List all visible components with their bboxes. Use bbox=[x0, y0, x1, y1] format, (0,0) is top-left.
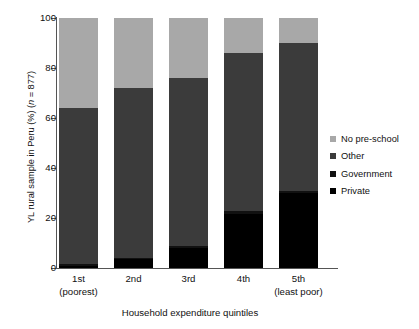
x-axis-line bbox=[56, 268, 338, 269]
x-axis-tick-label-sub: (least poor) bbox=[259, 286, 339, 299]
legend-swatch-icon bbox=[330, 136, 336, 142]
legend-swatch-icon bbox=[330, 171, 336, 177]
x-axis-tick-label-main: 1st bbox=[72, 273, 85, 284]
legend-label: Government bbox=[341, 169, 392, 179]
bar-segment-other[interactable] bbox=[279, 43, 318, 191]
bar-segment-private[interactable] bbox=[224, 214, 263, 268]
bar-segment-private[interactable] bbox=[59, 266, 98, 269]
bar-segment-no-pre-school[interactable] bbox=[279, 18, 318, 43]
x-axis-tick-label-main: 2nd bbox=[125, 273, 141, 284]
chart-figure: YL rural sample in Peru (%) (n = 877) 02… bbox=[0, 0, 419, 329]
y-axis-tick-label: 40 bbox=[12, 162, 56, 173]
bar-5[interactable] bbox=[279, 18, 318, 268]
bar-segment-no-pre-school[interactable] bbox=[114, 18, 153, 88]
bar-segment-no-pre-school[interactable] bbox=[59, 18, 98, 108]
legend-item-no-pre-school[interactable]: No pre-school bbox=[330, 130, 418, 148]
legend-label: No pre-school bbox=[341, 134, 399, 144]
bar-4[interactable] bbox=[224, 18, 263, 268]
bar-segment-private[interactable] bbox=[114, 259, 153, 268]
bar-segment-government[interactable] bbox=[224, 211, 263, 215]
y-axis-title-n-italic: n bbox=[26, 100, 36, 105]
bar-segment-other[interactable] bbox=[59, 108, 98, 264]
legend-swatch-icon bbox=[330, 188, 336, 194]
legend-swatch-icon bbox=[330, 153, 336, 159]
bar-segment-no-pre-school[interactable] bbox=[169, 18, 208, 78]
bar-segment-government[interactable] bbox=[279, 191, 318, 194]
bar-segment-other[interactable] bbox=[114, 88, 153, 258]
x-axis-tick-label-main: 3rd bbox=[182, 273, 196, 284]
bar-segment-other[interactable] bbox=[224, 53, 263, 211]
y-axis-tick-label: 0 bbox=[12, 262, 56, 273]
legend-label: Private bbox=[341, 186, 370, 196]
legend-item-other[interactable]: Other bbox=[330, 148, 418, 166]
y-axis-title: YL rural sample in Peru (%) (n = 877) bbox=[26, 22, 36, 272]
bar-segment-government[interactable] bbox=[114, 258, 153, 259]
y-axis-tick-label: 20 bbox=[12, 212, 56, 223]
bar-segment-private[interactable] bbox=[279, 193, 318, 268]
y-axis-tick-label: 60 bbox=[12, 112, 56, 123]
legend-item-government[interactable]: Government bbox=[330, 165, 418, 183]
bar-segment-no-pre-school[interactable] bbox=[224, 18, 263, 53]
x-axis-tick-label-sub: (poorest) bbox=[39, 286, 119, 299]
y-axis-tick-label: 80 bbox=[12, 62, 56, 73]
bar-segment-government[interactable] bbox=[169, 246, 208, 249]
legend: No pre-schoolOtherGovernmentPrivate bbox=[330, 130, 418, 200]
bar-segment-other[interactable] bbox=[169, 78, 208, 246]
bar-3[interactable] bbox=[169, 18, 208, 268]
x-axis-tick-label-5: 5th(least poor) bbox=[259, 273, 339, 298]
bar-1[interactable] bbox=[59, 18, 98, 268]
y-axis-title-suffix: = 877) bbox=[26, 71, 36, 100]
x-axis-title: Household expenditure quintiles bbox=[0, 307, 380, 318]
y-axis-tick-label: 100 bbox=[12, 12, 56, 23]
x-axis-tick-label-main: 4th bbox=[237, 273, 250, 284]
legend-item-private[interactable]: Private bbox=[330, 183, 418, 201]
plot-area bbox=[57, 18, 319, 268]
x-axis-tick-label-main: 5th bbox=[292, 273, 305, 284]
legend-label: Other bbox=[341, 151, 364, 161]
bar-2[interactable] bbox=[114, 18, 153, 268]
bar-segment-private[interactable] bbox=[169, 248, 208, 268]
bar-segment-government[interactable] bbox=[59, 264, 98, 265]
